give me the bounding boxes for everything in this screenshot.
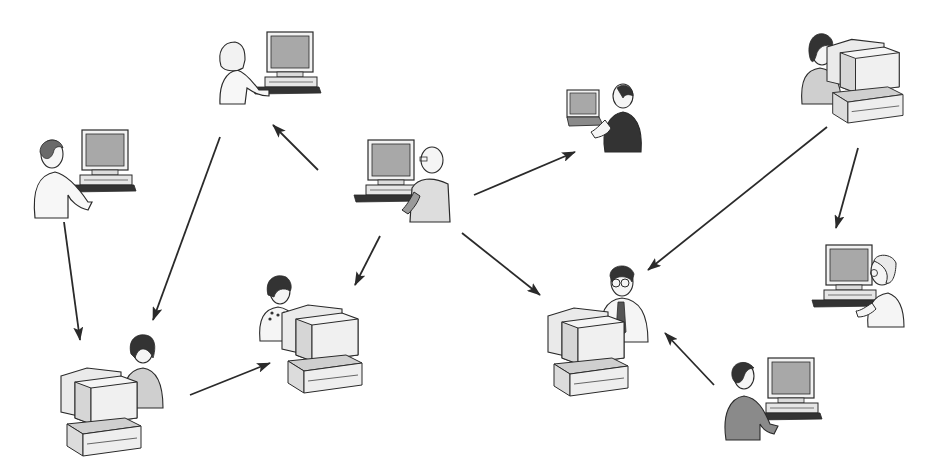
person-workstation-n7	[260, 276, 362, 393]
arrow-n3-to-n4	[474, 152, 575, 195]
edges	[64, 125, 858, 395]
arrow-n1-to-n6	[64, 222, 80, 340]
person-workstation-n4	[567, 84, 641, 152]
person-workstation-n2	[220, 32, 321, 104]
arrow-n5-to-n9	[836, 148, 858, 228]
person-workstation-n1	[34, 130, 136, 218]
arrow-n5-to-n8	[648, 127, 827, 270]
person-workstation-n9	[812, 245, 904, 327]
arrow-n3-to-n8	[462, 233, 540, 295]
arrow-n3-to-n7	[355, 236, 380, 285]
person-workstation-n8	[548, 266, 648, 396]
arrow-n3-to-n2	[273, 125, 318, 170]
person-workstation-n6	[61, 335, 163, 456]
arrow-n2-to-n6	[153, 137, 220, 320]
network-diagram	[0, 0, 930, 464]
person-workstation-n3	[354, 140, 450, 222]
arrow-n10-to-n8	[665, 333, 714, 385]
arrow-n6-to-n7	[190, 363, 270, 395]
person-workstation-n5	[802, 34, 903, 123]
person-workstation-n10	[725, 358, 822, 440]
